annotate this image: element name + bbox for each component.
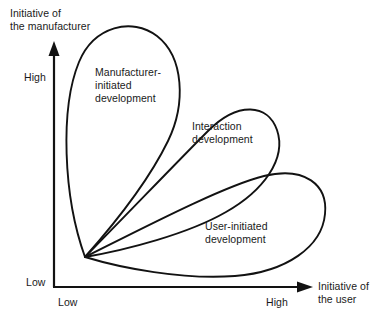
- x-axis-title-line1: Initiative of: [318, 280, 369, 292]
- region-label-line2: development: [205, 233, 266, 245]
- y-axis-low-label: Low: [26, 276, 45, 289]
- x-axis-title-line2: the user: [318, 293, 356, 305]
- y-axis-arrow-icon: [49, 41, 60, 56]
- x-axis-low-label: Low: [58, 296, 77, 309]
- x-axis-arrow-icon: [297, 282, 313, 293]
- region-label-line2: development: [192, 133, 253, 145]
- region-label-line1: User-initiated: [205, 220, 268, 232]
- region-label-manufacturer-initiated: Manufacturer-initiateddevelopment: [95, 66, 161, 106]
- y-axis-title-line2: the manufacturer: [10, 20, 90, 32]
- diagram-graphics: [0, 0, 386, 324]
- region-label-line2: initiated: [95, 79, 132, 91]
- region-label-interaction: Interactiondevelopment: [192, 120, 253, 146]
- y-axis-title: Initiative ofthe manufacturer: [10, 7, 90, 33]
- region-label-line1: Manufacturer-: [95, 66, 161, 78]
- y-axis-title-line1: Initiative of: [10, 7, 61, 19]
- region-label-line3: development: [95, 92, 156, 104]
- region-curve-manufacturer-initiated: [66, 26, 179, 257]
- diagram-canvas: Initiative ofthe manufacturer High Low L…: [0, 0, 386, 324]
- y-axis-high-label: High: [24, 71, 46, 84]
- region-label-line1: Interaction: [192, 120, 242, 132]
- x-axis-high-label: High: [266, 296, 288, 309]
- x-axis-title: Initiative ofthe user: [318, 280, 369, 306]
- region-label-user-initiated: User-initiateddevelopment: [205, 220, 268, 246]
